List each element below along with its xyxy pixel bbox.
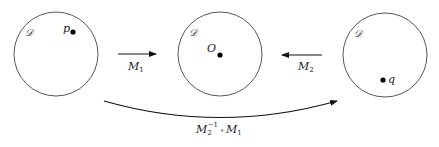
point-q <box>380 77 385 82</box>
arrow-m1-label: M1 <box>127 60 144 74</box>
domain-label-left: 𝒟 <box>25 27 35 38</box>
arrow-composite: M2−1∘M1 <box>104 101 337 137</box>
composite-label: M2−1∘M1 <box>195 121 242 137</box>
domain-label-center: 𝒟 <box>189 27 199 38</box>
arrow-m2-label: M2 <box>297 60 314 74</box>
point-label-q: q <box>388 73 395 86</box>
point-label-o: O <box>207 42 216 55</box>
point-p <box>70 29 75 34</box>
disk-center: 𝒟 O <box>178 12 262 96</box>
mobius-diagram: 𝒟 p 𝒟 O 𝒟 q M1 M2 M2−1∘M1 <box>0 0 439 147</box>
arrow-m2: M2 <box>282 55 322 74</box>
disk-right: 𝒟 q <box>343 13 427 97</box>
arrow-m1: M1 <box>118 54 156 74</box>
circle-left <box>14 12 98 96</box>
point-label-p: p <box>63 22 70 35</box>
disk-left: 𝒟 p <box>14 12 98 96</box>
domain-label-right: 𝒟 <box>354 28 364 39</box>
point-o <box>217 52 222 57</box>
curved-arrow-icon <box>104 101 337 118</box>
circle-right <box>343 13 427 97</box>
